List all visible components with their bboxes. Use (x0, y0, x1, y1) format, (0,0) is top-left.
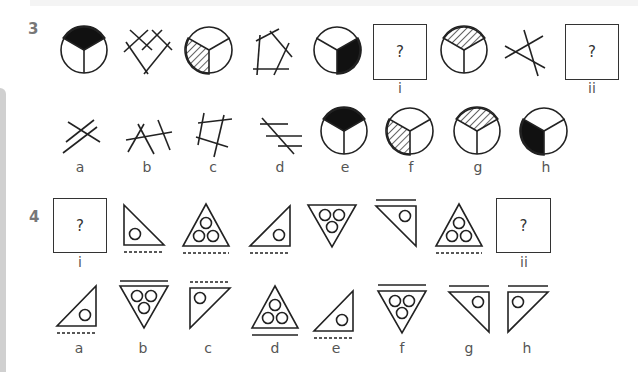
question-mark: ? (566, 43, 618, 61)
option-label-b: b (132, 159, 162, 175)
answer-box-label-ii: ii (577, 80, 607, 96)
option-label-c: c (193, 340, 223, 356)
option-label-h: h (531, 159, 561, 175)
option-e-figure[interactable] (313, 290, 355, 340)
option-label-d: d (260, 340, 290, 356)
right-triangle-right-dashed-below-figure (249, 205, 291, 255)
crossed-lines-triangle-figure (505, 30, 547, 76)
option-b-figure[interactable] (119, 279, 169, 329)
answer-box-label-i: i (65, 254, 95, 270)
option-label-e: e (321, 340, 351, 356)
answer-box-ii[interactable]: ? (565, 24, 619, 80)
option-c-figure[interactable] (189, 280, 231, 330)
question-mark: ? (374, 43, 426, 61)
triangle-three-circles-dashed-below-figure (435, 203, 483, 255)
option-f-figure[interactable] (377, 283, 427, 333)
option-label-f: f (387, 340, 417, 356)
answer-box-ii[interactable]: ? (496, 198, 551, 253)
question-number-4: 4 (29, 208, 39, 226)
circle-top-black-figure (60, 26, 108, 74)
option-h-figure[interactable] (520, 107, 568, 155)
triangle-down-three-circles-figure (307, 203, 357, 249)
triangle-three-circles-dashed-below-figure (182, 203, 230, 255)
option-a-figure[interactable] (63, 117, 101, 153)
option-label-h: h (512, 340, 542, 356)
circle-right-black-figure (313, 26, 361, 74)
option-label-g: g (463, 159, 493, 175)
option-label-d: d (265, 159, 295, 175)
answer-box-label-ii: ii (509, 254, 539, 270)
option-b-figure[interactable] (126, 116, 172, 154)
option-label-e: e (330, 159, 360, 175)
question-mark: ? (54, 217, 106, 235)
option-label-g: g (454, 340, 484, 356)
option-a-figure[interactable] (56, 285, 98, 335)
right-triangle-dashed-below-figure (123, 204, 165, 254)
right-triangle-down-line-above-figure (375, 198, 417, 248)
option-g-figure[interactable] (448, 284, 490, 334)
option-f-figure[interactable] (386, 107, 434, 155)
crossed-lines-heart-figure (122, 28, 172, 74)
question-mark: ? (497, 217, 550, 235)
answer-box-i[interactable]: ? (373, 24, 427, 80)
option-c-figure[interactable] (196, 113, 232, 157)
circle-top-hatched-figure (440, 26, 488, 74)
option-label-f: f (396, 159, 426, 175)
question-number-3: 3 (28, 20, 38, 38)
option-e-figure[interactable] (320, 107, 368, 155)
option-label-a: a (65, 159, 95, 175)
option-h-figure[interactable] (507, 284, 549, 334)
option-label-c: c (198, 159, 228, 175)
top-strip (30, 0, 638, 6)
option-g-figure[interactable] (453, 107, 501, 155)
option-d-figure[interactable] (260, 116, 304, 154)
answer-box-label-i: i (385, 80, 415, 96)
answer-box-i[interactable]: ? (53, 198, 107, 253)
option-d-figure[interactable] (251, 285, 299, 337)
crossed-lines-pentagon-figure (253, 27, 293, 75)
option-label-b: b (128, 340, 158, 356)
circle-left-hatched-figure (185, 26, 233, 74)
page-edge-tab (0, 88, 6, 372)
option-label-a: a (64, 340, 94, 356)
